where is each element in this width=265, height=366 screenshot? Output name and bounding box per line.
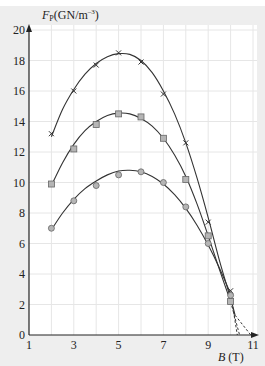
circle-marker bbox=[138, 169, 144, 175]
square-marker bbox=[183, 176, 189, 182]
y-tick-label: 12 bbox=[13, 145, 25, 159]
square-marker bbox=[228, 298, 234, 304]
circle-marker bbox=[205, 241, 211, 247]
circle-marker bbox=[48, 225, 54, 231]
x-tick-label: 1 bbox=[26, 338, 32, 352]
x-axis-label: B (T) bbox=[218, 350, 244, 364]
x-tick-label: 3 bbox=[71, 338, 77, 352]
circle-marker bbox=[116, 172, 122, 178]
x-tick-label: 5 bbox=[116, 338, 122, 352]
square-marker bbox=[138, 114, 144, 120]
square-marker bbox=[48, 181, 54, 187]
y-tick-label: 18 bbox=[13, 54, 25, 68]
y-axis-label: FP(GN/m–3) bbox=[41, 8, 99, 23]
square-marker bbox=[93, 122, 99, 128]
y-tick-label: 6 bbox=[19, 237, 25, 251]
y-tick-label: 0 bbox=[19, 328, 25, 342]
circle-marker bbox=[183, 204, 189, 210]
circle-marker bbox=[93, 183, 99, 189]
square-marker bbox=[205, 233, 211, 239]
y-tick-label: 16 bbox=[13, 84, 25, 98]
y-tick-label: 8 bbox=[19, 206, 25, 220]
x-tick-label: 7 bbox=[160, 338, 166, 352]
y-tick-label: 10 bbox=[13, 176, 25, 190]
circle-marker bbox=[71, 198, 77, 204]
y-tick-label: 4 bbox=[19, 267, 25, 281]
y-tick-label: 20 bbox=[13, 23, 25, 37]
x-tick-label: 9 bbox=[205, 338, 211, 352]
circle-marker bbox=[160, 180, 166, 186]
chart: 135791102468101214161820 FP(GN/m–3) B (T… bbox=[0, 0, 265, 366]
y-tick-label: 2 bbox=[19, 298, 25, 312]
square-marker bbox=[116, 111, 122, 117]
circle-marker bbox=[228, 292, 234, 298]
square-marker bbox=[71, 146, 77, 152]
y-tick-label: 14 bbox=[13, 115, 25, 129]
x-tick-label: 11 bbox=[247, 338, 259, 352]
square-marker bbox=[160, 135, 166, 141]
plot-area bbox=[29, 25, 257, 335]
